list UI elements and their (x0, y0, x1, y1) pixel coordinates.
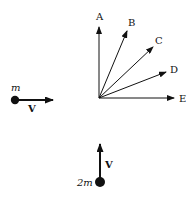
bottom-mass-group: 2m V (76, 144, 113, 188)
label-e: E (179, 93, 186, 104)
collision-diagram: A B C D E m V 2m V (0, 0, 189, 198)
label-c: C (155, 35, 163, 46)
label-d: D (170, 64, 178, 75)
bottom-mass-label: 2m (76, 177, 93, 188)
left-mass-group: m V (11, 82, 53, 114)
vector-b-arrow (99, 31, 127, 98)
option-vectors: A B C D E (95, 11, 186, 104)
label-a: A (95, 11, 104, 22)
vector-d-arrow (99, 72, 166, 98)
bottom-velocity-label: V (104, 159, 113, 170)
left-velocity-label: V (27, 103, 36, 114)
vector-c-arrow (99, 47, 153, 98)
label-b: B (128, 17, 135, 28)
left-mass-label: m (11, 82, 20, 93)
